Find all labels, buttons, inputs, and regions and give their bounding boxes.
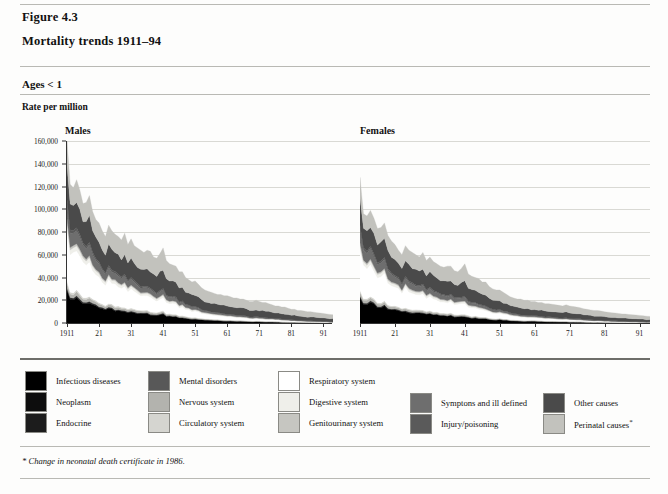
panel-title-males: Males	[65, 125, 91, 136]
x-tick-mark	[323, 323, 324, 327]
x-tick-label: 1911	[353, 329, 368, 338]
x-tick-label: 91	[320, 329, 327, 338]
area-chart-males	[67, 141, 333, 323]
y-tick-label: 80,000	[38, 228, 58, 237]
legend-label: Nervous system	[179, 397, 234, 407]
legend-item[interactable]: Infectious diseases	[25, 370, 121, 391]
x-axis-line-females	[360, 323, 650, 324]
x-tick-label: 41	[159, 329, 166, 338]
x-tick-label: 81	[288, 329, 295, 338]
legend-item[interactable]: Mental disorders	[148, 370, 244, 391]
legend-item[interactable]: Respiratory system	[278, 370, 383, 391]
legend-item[interactable]: Nervous system	[148, 391, 244, 412]
legend-top-rule	[20, 358, 650, 360]
legend-label: Mental disorders	[179, 376, 237, 386]
y-tick-label: 140,000	[34, 159, 58, 168]
legend-asterisk: *	[629, 418, 633, 426]
x-tick-mark	[430, 323, 431, 327]
x-tick-label: 61	[531, 329, 538, 338]
x-tick-mark	[605, 323, 606, 327]
legend-item[interactable]: Injury/poisoning	[410, 413, 527, 434]
x-tick-mark	[195, 323, 196, 327]
legend-item[interactable]: Endocrine	[25, 412, 121, 433]
x-tick-mark	[500, 323, 501, 327]
y-axis-title: Rate per million	[22, 102, 88, 112]
y-tick-label: 120,000	[34, 182, 58, 191]
x-tick-mark	[360, 323, 361, 327]
legend-swatch	[410, 414, 432, 434]
x-tick-mark	[259, 323, 260, 327]
chart-panels	[67, 141, 650, 323]
legend-swatch	[148, 413, 170, 433]
footnote-top-rule	[20, 446, 650, 447]
legend-column-5: Other causesPerinatal causes*	[543, 392, 633, 434]
legend-label: Infectious diseases	[56, 376, 121, 386]
y-tick-label: 60,000	[38, 250, 58, 259]
y-tick-label: 0	[54, 319, 58, 328]
figure-title: Mortality trends 1911–94	[22, 34, 161, 49]
y-tick-label: 40,000	[38, 273, 58, 282]
legend-item[interactable]: Circulatory system	[148, 412, 244, 433]
legend-item[interactable]: Genitourinary system	[278, 412, 383, 433]
y-axis-labels: 020,00040,00060,00080,000100,000120,0001…	[20, 141, 62, 323]
x-tick-mark	[570, 323, 571, 327]
x-tick-mark	[99, 323, 100, 327]
legend-label: Respiratory system	[309, 376, 375, 386]
x-tick-mark	[465, 323, 466, 327]
legend-label: Circulatory system	[179, 418, 244, 428]
legend-label: Perinatal causes*	[574, 418, 633, 430]
chart-legend: Infectious diseasesNeoplasmEndocrineMent…	[20, 370, 650, 440]
legend-label: Genitourinary system	[309, 418, 383, 428]
y-tick-label: 20,000	[38, 296, 58, 305]
ages-divider-rule	[20, 94, 650, 95]
panel-title-females: Females	[360, 125, 395, 136]
legend-label: Endocrine	[56, 418, 91, 428]
age-group-label: Ages < 1	[22, 78, 62, 90]
legend-swatch	[148, 371, 170, 391]
legend-swatch	[543, 414, 565, 434]
x-tick-mark	[640, 323, 641, 327]
x-tick-label: 21	[95, 329, 102, 338]
figure-label: Figure 4.3	[22, 10, 78, 25]
legend-swatch	[25, 371, 47, 391]
x-tick-mark	[291, 323, 292, 327]
legend-item[interactable]: Perinatal causes*	[543, 413, 633, 434]
x-tick-label: 51	[191, 329, 198, 338]
x-tick-label: 81	[601, 329, 608, 338]
legend-item[interactable]: Neoplasm	[25, 391, 121, 412]
title-divider-rule	[20, 66, 650, 67]
x-tick-mark	[131, 323, 132, 327]
x-tick-label: 41	[461, 329, 468, 338]
x-tick-label: 31	[127, 329, 134, 338]
legend-item[interactable]: Symptons and ill defined	[410, 392, 527, 413]
x-tick-label: 91	[636, 329, 643, 338]
x-tick-mark	[163, 323, 164, 327]
x-tick-mark	[67, 323, 68, 327]
y-tick-label: 160,000	[34, 137, 58, 146]
x-tick-mark	[535, 323, 536, 327]
legend-label: Digestive system	[309, 397, 368, 407]
legend-label: Injury/poisoning	[441, 419, 498, 429]
legend-swatch	[148, 392, 170, 412]
legend-swatch	[278, 392, 300, 412]
figure-page: Figure 4.3 Mortality trends 1911–94 Ages…	[0, 0, 668, 494]
x-tick-label: 31	[426, 329, 433, 338]
legend-swatch	[25, 413, 47, 433]
x-tick-mark	[395, 323, 396, 327]
area-chart-females	[360, 141, 650, 323]
legend-swatch	[410, 393, 432, 413]
footnote: * Change in neonatal death certificate i…	[22, 456, 185, 466]
legend-item[interactable]: Other causes	[543, 392, 633, 413]
legend-item[interactable]: Digestive system	[278, 391, 383, 412]
x-tick-label: 71	[256, 329, 263, 338]
x-tick-label: 1911	[60, 329, 75, 338]
legend-label: Neoplasm	[56, 397, 91, 407]
x-tick-mark	[227, 323, 228, 327]
axes: 020,00040,00060,00080,000100,000120,0001…	[20, 141, 650, 341]
legend-label: Other causes	[574, 398, 618, 408]
legend-label: Symptons and ill defined	[441, 398, 527, 408]
legend-swatch	[543, 393, 565, 413]
top-rule	[20, 4, 650, 5]
legend-column-4: Symptons and ill definedInjury/poisoning	[410, 392, 527, 434]
y-tick-label: 100,000	[34, 205, 58, 214]
